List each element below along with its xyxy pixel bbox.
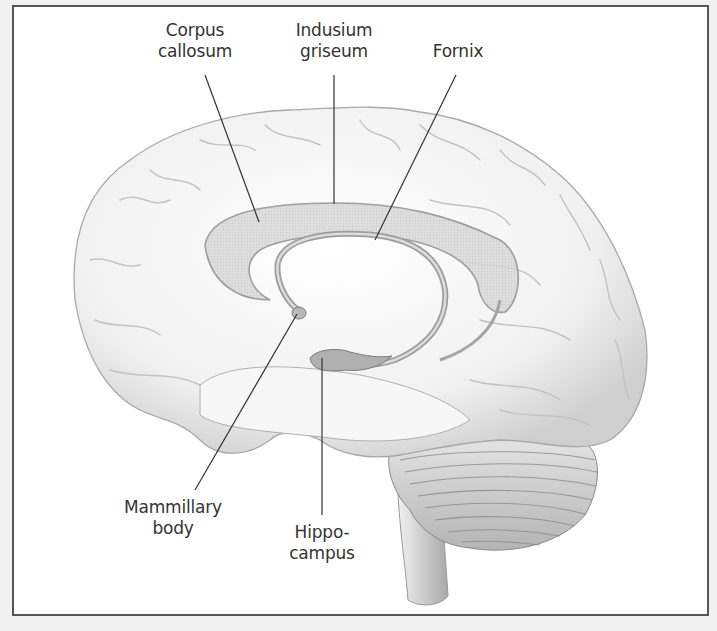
label-hippocampus: Hippo- campus [289, 522, 355, 564]
label-indusium-griseum-line2: griseum [296, 41, 373, 62]
label-fornix-line1: Fornix [433, 41, 484, 62]
label-mammillary-body-line2: body [124, 518, 222, 539]
label-indusium-griseum-line1: Indusium [296, 20, 373, 41]
label-corpus-callosum: Corpus callosum [158, 20, 232, 62]
label-corpus-callosum-line2: callosum [158, 41, 232, 62]
label-corpus-callosum-line1: Corpus [158, 20, 232, 41]
mammillary-body-structure [292, 307, 306, 319]
label-fornix: Fornix [433, 41, 484, 62]
brain-illustration [0, 0, 717, 631]
label-mammillary-body-line1: Mammillary [124, 497, 222, 518]
label-indusium-griseum: Indusium griseum [296, 20, 373, 62]
label-hippocampus-line1: Hippo- [289, 522, 355, 543]
label-hippocampus-line2: campus [289, 543, 355, 564]
cerebrum [74, 107, 647, 457]
label-mammillary-body: Mammillary body [124, 497, 222, 539]
